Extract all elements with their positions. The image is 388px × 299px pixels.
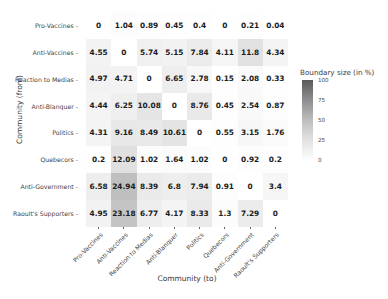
heatmap-cell: 12.09 — [111, 146, 136, 173]
x-tick-mark — [123, 227, 124, 229]
y-tick-label: Quebecors- — [0, 146, 82, 173]
heatmap-grid: 01.040.890.450.400.210.044.5505.745.157.… — [86, 12, 288, 227]
x-tick-mark — [250, 227, 251, 229]
heatmap-cell: 4.34 — [263, 39, 288, 66]
y-tick-label: Anti-Government- — [0, 173, 82, 200]
heatmap-cell: 8.76 — [187, 93, 212, 120]
x-tick-mark — [98, 227, 99, 229]
heatmap-cell: 5.74 — [137, 39, 162, 66]
heatmap-cell: 0.45 — [212, 93, 237, 120]
heatmap-cell: 6.58 — [86, 173, 111, 200]
y-tick-label: Raoult's Supporters- — [0, 200, 82, 227]
x-tick-mark — [224, 227, 225, 229]
x-tick-mark — [275, 227, 276, 229]
heatmap-cell: 0 — [212, 146, 237, 173]
heatmap-plot-area: 01.040.890.450.400.210.044.5505.745.157.… — [86, 12, 288, 227]
heatmap-cell: 0.92 — [238, 146, 263, 173]
heatmap-cell: 0.15 — [212, 66, 237, 93]
y-tick-label: Reaction to Medias- — [0, 66, 82, 93]
heatmap-cell: 10.08 — [137, 93, 162, 120]
y-tick-mark: - — [76, 129, 78, 136]
y-tick-mark: - — [76, 156, 78, 163]
heatmap-cell: 4.44 — [86, 93, 111, 120]
colorbar-body: 1007550250 — [300, 80, 388, 172]
heatmap-cell: 0.33 — [263, 66, 288, 93]
x-tick-mark — [174, 227, 175, 229]
heatmap-cell: 1.02 — [187, 146, 212, 173]
heatmap-cell: 6.8 — [162, 173, 187, 200]
heatmap-cell: 6.65 — [162, 66, 187, 93]
heatmap-cell: 0 — [187, 120, 212, 147]
heatmap-cell: 9.16 — [111, 120, 136, 147]
x-axis-title: Community (to) — [86, 274, 288, 283]
y-tick-label: Politics- — [0, 120, 82, 147]
heatmap-cell: 3.15 — [238, 120, 263, 147]
heatmap-cell: 4.11 — [212, 39, 237, 66]
heatmap-cell: 7.94 — [187, 173, 212, 200]
y-tick-label: Pro-Vaccines- — [0, 12, 82, 39]
heatmap-figure: Community (from) Pro-Vaccines-Anti-Vacci… — [0, 0, 388, 299]
heatmap-cell: 0.2 — [86, 146, 111, 173]
x-axis-tick-labels: Pro-VaccinesAnti-VaccinesReaction to Med… — [86, 227, 288, 273]
colorbar-tick-label: 0 — [318, 157, 322, 163]
y-axis-tick-labels: Pro-Vaccines-Anti-Vaccines-Reaction to M… — [0, 12, 82, 227]
y-tick-label: Anti-Blanquer- — [0, 93, 82, 120]
heatmap-cell: 8.39 — [137, 173, 162, 200]
heatmap-cell: 0 — [162, 93, 187, 120]
heatmap-cell: 4.31 — [86, 120, 111, 147]
heatmap-cell: 3.4 — [263, 173, 288, 200]
heatmap-cell: 0.45 — [162, 12, 187, 39]
heatmap-cell: 4.55 — [86, 39, 111, 66]
heatmap-cell: 2.78 — [187, 66, 212, 93]
y-tick-mark: - — [76, 22, 78, 29]
heatmap-cell: 4.17 — [162, 200, 187, 227]
heatmap-cell: 4.71 — [111, 66, 136, 93]
heatmap-cell: 23.18 — [111, 200, 136, 227]
heatmap-cell: 8.49 — [137, 120, 162, 147]
heatmap-cell: 6.77 — [137, 200, 162, 227]
heatmap-cell: 0.04 — [263, 12, 288, 39]
heatmap-cell: 10.61 — [162, 120, 187, 147]
heatmap-cell: 0 — [238, 173, 263, 200]
heatmap-cell: 0.2 — [263, 146, 288, 173]
x-tick-mark — [199, 227, 200, 229]
y-tick-mark: - — [76, 183, 78, 190]
heatmap-cell: 24.94 — [111, 173, 136, 200]
heatmap-cell: 0 — [137, 66, 162, 93]
heatmap-cell: 0 — [212, 12, 237, 39]
heatmap-cell: 4.97 — [86, 66, 111, 93]
y-tick-mark: - — [76, 76, 78, 83]
colorbar-tick-label: 25 — [318, 137, 325, 143]
heatmap-cell: 0 — [263, 200, 288, 227]
heatmap-cell: 2.08 — [238, 66, 263, 93]
heatmap-cell: 1.02 — [137, 146, 162, 173]
colorbar-title: Boundary size (in %) — [300, 68, 388, 77]
heatmap-cell: 8.33 — [187, 200, 212, 227]
heatmap-cell: 5.15 — [162, 39, 187, 66]
heatmap-cell: 7.84 — [187, 39, 212, 66]
heatmap-cell: 2.54 — [238, 93, 263, 120]
colorbar-tick-label: 75 — [318, 97, 325, 103]
heatmap-cell: 0.91 — [212, 173, 237, 200]
heatmap-cell: 1.64 — [162, 146, 187, 173]
heatmap-cell: 1.76 — [263, 120, 288, 147]
heatmap-cell: 6.25 — [111, 93, 136, 120]
heatmap-cell: 4.95 — [86, 200, 111, 227]
y-tick-mark: - — [76, 210, 78, 217]
heatmap-cell: 0 — [86, 12, 111, 39]
colorbar-tick-label: 50 — [318, 117, 325, 123]
heatmap-cell: 1.04 — [111, 12, 136, 39]
colorbar-gradient — [302, 80, 313, 160]
heatmap-cell: 0 — [111, 39, 136, 66]
heatmap-cell: 7.29 — [238, 200, 263, 227]
y-tick-label: Anti-Vaccines- — [0, 39, 82, 66]
heatmap-cell: 0.89 — [137, 12, 162, 39]
heatmap-cell: 0.87 — [263, 93, 288, 120]
colorbar-legend: Boundary size (in %) 1007550250 — [300, 68, 388, 172]
heatmap-cell: 1.3 — [212, 200, 237, 227]
heatmap-cell: 0.21 — [238, 12, 263, 39]
heatmap-cell: 11.8 — [238, 39, 263, 66]
y-tick-mark: - — [76, 103, 78, 110]
colorbar-tick-label: 100 — [318, 77, 329, 83]
heatmap-cell: 0.4 — [187, 12, 212, 39]
